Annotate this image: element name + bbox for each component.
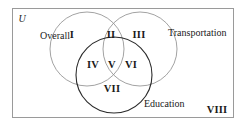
region-label-iv: IV	[87, 60, 99, 71]
region-label-iii: III	[133, 30, 146, 41]
region-label-viii: VIII	[207, 105, 228, 116]
venn-diagram-figure: U Overall Transportation Education I II …	[0, 0, 247, 126]
universe-symbol: U	[18, 14, 25, 24]
set-label-education: Education	[144, 99, 185, 109]
region-label-ii: II	[107, 30, 116, 41]
region-label-i: I	[70, 30, 74, 41]
region-label-vi: VI	[125, 60, 137, 71]
set-label-overall: Overall	[40, 31, 70, 41]
region-label-vii: VII	[104, 84, 120, 95]
region-label-v: V	[108, 60, 116, 71]
set-label-transportation: Transportation	[168, 28, 227, 38]
universe-frame	[13, 9, 234, 118]
